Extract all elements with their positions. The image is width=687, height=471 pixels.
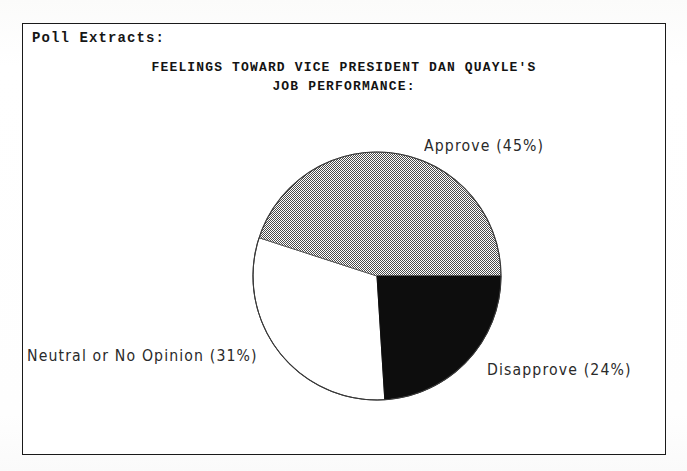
pie-label-approve: Approve (45%) xyxy=(424,136,544,155)
pie-slice-disapprove[interactable] xyxy=(377,276,501,400)
scanned-document-page: PRESIDENT BUSH'S Poll Extracts: FEELINGS… xyxy=(0,0,687,471)
pie-label-disapprove: Disapprove (24%) xyxy=(487,360,632,379)
pie-chart xyxy=(0,0,687,471)
pie-label-neutral: Neutral or No Opinion (31%) xyxy=(27,346,258,365)
